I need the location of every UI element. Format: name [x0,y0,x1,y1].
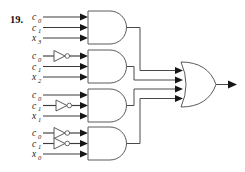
not-triangle [54,51,65,62]
input-label-x2-g2: x 2 [31,72,42,84]
figure-canvas: 19. c 0 c 1 x 3 [0,0,245,172]
arrowhead-g2-in2 [80,63,88,70]
not-bubble [65,54,70,59]
not-triangle [54,128,65,139]
arrowhead-g3-in2 [80,102,88,109]
wire-and2-to-or [127,67,176,81]
signal-letter: c [32,101,37,111]
arrowhead-g3-in3 [80,113,88,120]
signal-letter: c [32,128,37,138]
not-bubble [67,103,72,108]
not-gate-4 [54,138,70,149]
arrowhead-circuit-output [228,81,237,89]
arrowhead-g1-in1 [80,14,88,21]
input-label-x1-g3: x 1 [31,111,41,123]
not-gate-2 [56,100,72,111]
signal-letter: x [31,33,37,43]
arrowhead-g2-in3 [80,74,88,81]
not-gate-1 [54,51,70,62]
arrowhead-g3-in1 [80,92,88,99]
signal-subscript: 2 [38,77,42,84]
signal-letter: c [32,90,37,100]
signal-letter: x [31,111,37,121]
or-gate-output [181,62,216,107]
signal-subscript: 0 [38,56,42,63]
signal-subscript: 0 [38,133,42,140]
arrowhead-g2-in1 [80,53,88,60]
signal-subscript: 1 [38,66,41,73]
signal-subscript: 1 [38,27,41,34]
and-gate-2 [88,50,127,83]
arrowhead-g1-in2 [80,24,88,31]
signal-letter: x [31,72,37,82]
arrowhead-or-in4 [175,95,183,102]
signal-letter: c [32,139,37,149]
signal-subscript: 1 [38,116,41,123]
not-bubble [65,141,70,146]
arrowhead-g4-in2 [80,140,88,147]
arrowhead-or-in1 [175,67,183,74]
input-group-4: c 0 c 1 x [31,128,88,161]
input-group-2: c 0 c 1 x 2 [31,51,88,84]
input-label-x0-g4: x 0 [31,149,42,161]
exercise-number: 19. [10,14,24,25]
signal-subscript: 0 [38,95,42,102]
not-gate-3 [54,128,70,139]
input-label-x3-g1: x 3 [31,33,42,45]
arrowhead-or-in3 [175,86,183,93]
signal-letter: c [32,62,37,72]
arrowhead-g4-in3 [80,151,88,158]
arrowhead-or-in2 [175,77,183,84]
not-triangle [54,138,65,149]
signal-letter: c [32,23,37,33]
signal-letter: x [31,149,37,159]
signal-subscript: 1 [38,143,41,150]
arrowhead-g4-in1 [80,130,88,137]
not-bubble [65,131,70,136]
signal-subscript: 0 [38,154,42,161]
logic-circuit-diagram: 19. c 0 c 1 x 3 [0,0,245,172]
wire-and3-to-or [127,89,176,106]
and-gate-3 [88,89,127,122]
and-gate-4 [88,127,127,160]
arrowhead-g1-in3 [80,35,88,42]
and-gate-1 [88,11,127,44]
input-group-1: c 0 c 1 x 3 [31,12,88,45]
signal-letter: c [32,51,37,61]
input-group-3: c 0 c 1 x 1 [31,90,88,123]
signal-subscript: 0 [38,17,42,24]
signal-subscript: 3 [37,38,42,45]
signal-letter: c [32,12,37,22]
wire-and1-to-or [127,28,176,71]
not-triangle [56,100,67,111]
signal-subscript: 1 [38,105,41,112]
